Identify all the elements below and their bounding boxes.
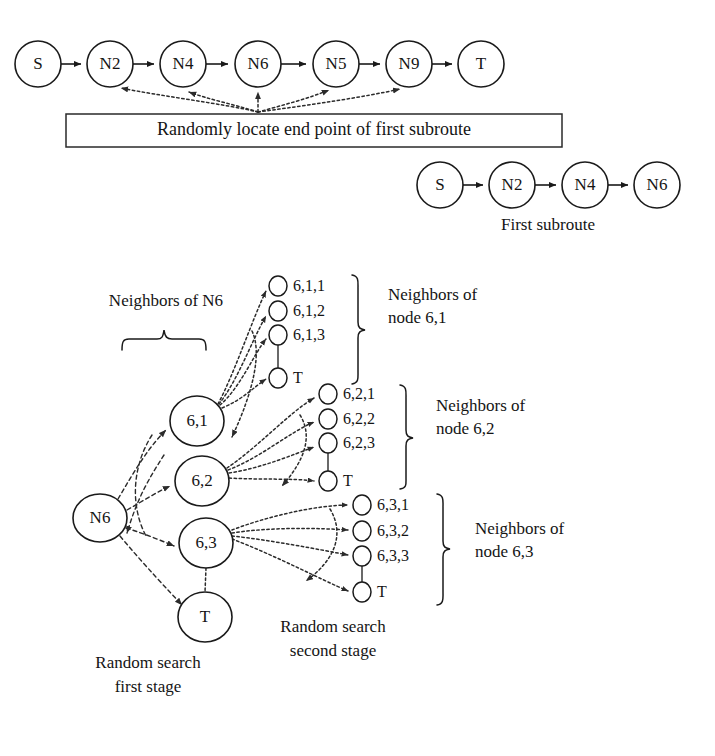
leaf-613: 6,1,3 bbox=[269, 325, 325, 345]
leaf-612-label: 6,1,2 bbox=[293, 302, 325, 319]
neighbors-of-n6-annotation: Neighbors of N6 bbox=[109, 291, 223, 350]
leaf-62-t-label: T bbox=[343, 472, 353, 489]
node-n2: N2 bbox=[87, 41, 133, 87]
node-n9-label: N9 bbox=[399, 54, 420, 73]
leaf-611-label: 6,1,1 bbox=[293, 277, 325, 294]
node-t: T bbox=[458, 41, 504, 87]
neighbor-group-61-label-line1: Neighbors of bbox=[388, 285, 478, 304]
leaf-633-label: 6,3,3 bbox=[377, 547, 409, 564]
first-subroute-group: S N2 N4 N6 First subroute bbox=[417, 162, 680, 234]
leaf-631: 6,3,1 bbox=[353, 495, 409, 515]
leaf-611: 6,1,1 bbox=[269, 276, 325, 296]
neighbor-group-61-label-line2: node 6,1 bbox=[388, 308, 447, 327]
diagram-canvas: S N2 N4 N6 N5 N9 bbox=[0, 0, 715, 756]
neighbors-of-n6-label: Neighbors of N6 bbox=[109, 291, 223, 310]
tree-node-t-label: T bbox=[200, 607, 211, 626]
node-n4: N4 bbox=[160, 41, 206, 87]
second-stage-arrows-63 bbox=[232, 505, 348, 591]
subroute-node-n6: N6 bbox=[634, 162, 680, 208]
subroute-node-s-label: S bbox=[435, 175, 444, 194]
subroute-node-s: S bbox=[417, 162, 463, 208]
leaf-61-t: T bbox=[269, 368, 303, 388]
leaf-62-t: T bbox=[319, 471, 353, 491]
leaf-632-label: 6,3,2 bbox=[377, 522, 409, 539]
tree-node-t: T bbox=[178, 592, 232, 642]
tree-node-63-label: 6,3 bbox=[195, 533, 216, 552]
tree-node-n6-label: N6 bbox=[90, 508, 111, 527]
leaf-623: 6,2,3 bbox=[319, 433, 375, 453]
neighbor-group-62: 6,2,1 6,2,2 6,2,3 T Neighbors of node 6,… bbox=[319, 384, 526, 491]
tree-node-61-label: 6,1 bbox=[186, 411, 207, 430]
caption-second-stage-line2: second stage bbox=[290, 641, 376, 660]
subroute-node-n4: N4 bbox=[562, 162, 608, 208]
tree-node-62: 6,2 bbox=[175, 456, 229, 506]
leaf-621-label: 6,2,1 bbox=[343, 385, 375, 402]
caption-second-stage-line1: Random search bbox=[280, 617, 386, 636]
first-subroute-caption: First subroute bbox=[501, 215, 595, 234]
caption-first-stage-line1: Random search bbox=[95, 653, 201, 672]
node-n5-label: N5 bbox=[326, 54, 347, 73]
leaf-633: 6,3,3 bbox=[353, 546, 409, 566]
leaf-63-t-label: T bbox=[377, 583, 387, 600]
neighbor-group-63-label-line2: node 6,3 bbox=[475, 542, 534, 561]
full-route-group: S N2 N4 N6 N5 N9 bbox=[15, 41, 504, 87]
diagram-figure: S N2 N4 N6 N5 N9 bbox=[0, 0, 715, 756]
subroute-node-n4-label: N4 bbox=[575, 175, 596, 194]
leaf-623-label: 6,2,3 bbox=[343, 434, 375, 451]
node-n4-label: N4 bbox=[173, 54, 194, 73]
caption-first-stage-line2: first stage bbox=[115, 677, 182, 696]
tree-node-63: 6,3 bbox=[179, 518, 233, 568]
leaf-61-t-label: T bbox=[293, 369, 303, 386]
second-stage-arrows-61 bbox=[218, 291, 266, 437]
leaf-612: 6,1,2 bbox=[269, 301, 325, 321]
edge-63-to-t bbox=[205, 568, 206, 592]
leaf-631-label: 6,3,1 bbox=[377, 496, 409, 513]
node-t-label: T bbox=[476, 54, 487, 73]
tree-node-62-label: 6,2 bbox=[191, 471, 212, 490]
subroute-node-n6-label: N6 bbox=[647, 175, 668, 194]
node-n6: N6 bbox=[235, 41, 281, 87]
callout-box: Randomly locate end point of first subro… bbox=[66, 114, 562, 147]
node-n5: N5 bbox=[313, 41, 359, 87]
node-s: S bbox=[15, 41, 61, 87]
neighbor-group-63: 6,3,1 6,3,2 6,3,3 T Neighbors of node 6,… bbox=[353, 494, 565, 605]
neighbor-group-63-label-line1: Neighbors of bbox=[475, 519, 565, 538]
leaf-632: 6,3,2 bbox=[353, 521, 409, 541]
tree-node-61: 6,1 bbox=[170, 396, 224, 446]
caption-second-stage: Random search second stage bbox=[280, 617, 386, 660]
leaf-622-label: 6,2,2 bbox=[343, 410, 375, 427]
leaf-621: 6,2,1 bbox=[319, 384, 375, 404]
leaf-613-label: 6,1,3 bbox=[293, 326, 325, 343]
leaf-622: 6,2,2 bbox=[319, 409, 375, 429]
subroute-node-n2-label: N2 bbox=[502, 175, 523, 194]
neighbor-group-62-label-line2: node 6,2 bbox=[436, 419, 495, 438]
node-n6-label: N6 bbox=[248, 54, 269, 73]
callout-fan-arrows bbox=[121, 88, 400, 112]
neighbor-group-62-label-line1: Neighbors of bbox=[436, 396, 526, 415]
subroute-node-n2: N2 bbox=[489, 162, 535, 208]
node-n9: N9 bbox=[386, 41, 432, 87]
neighbor-group-61: 6,1,1 6,1,2 6,1,3 T Neighbors of node 6,… bbox=[269, 275, 478, 388]
caption-first-stage: Random search first stage bbox=[95, 653, 201, 696]
tree-node-n6: N6 bbox=[73, 494, 127, 542]
callout-box-text: Randomly locate end point of first subro… bbox=[157, 119, 471, 139]
second-stage-arrows-62 bbox=[227, 398, 314, 486]
leaf-63-t: T bbox=[353, 582, 387, 602]
node-n2-label: N2 bbox=[100, 54, 121, 73]
node-s-label: S bbox=[33, 54, 42, 73]
